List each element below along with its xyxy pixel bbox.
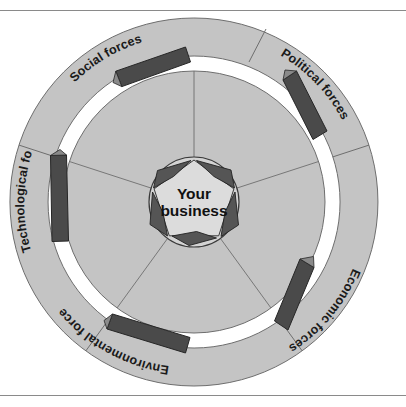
center-title-line1: Your: [177, 185, 211, 202]
force-bar-technological: [51, 150, 69, 242]
diagram-page: Social forces Political forces Economic …: [0, 0, 406, 407]
center-title-line2: business: [160, 202, 227, 219]
forces-wheel-diagram: Social forces Political forces Economic …: [0, 0, 406, 407]
core-group: Your business: [149, 157, 239, 247]
